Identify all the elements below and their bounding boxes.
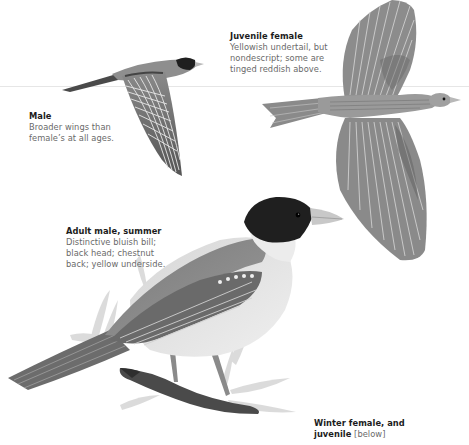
caption-text-line: female’s at all ages. bbox=[29, 133, 114, 144]
caption-note: [below] bbox=[354, 429, 385, 439]
caption-title-continued: juvenile bbox=[314, 429, 351, 439]
caption-text-line: black head; chestnut bbox=[66, 248, 165, 259]
caption-text-line: tinged reddish above. bbox=[230, 64, 328, 75]
caption-winter-female: Winter female, and juvenile [below] bbox=[314, 418, 405, 440]
caption-title: Winter female, and bbox=[314, 418, 405, 429]
caption-title: Adult male, summer bbox=[66, 226, 165, 237]
caption-text-line: Distinctive bluish bill; bbox=[66, 237, 165, 248]
caption-title: Male bbox=[29, 111, 114, 122]
caption-text-line: Yellowish undertail, but bbox=[230, 42, 328, 53]
caption-juvenile-female: Juvenile female Yellowish undertail, but… bbox=[230, 31, 328, 75]
caption-text-line: Broader wings than bbox=[29, 122, 114, 133]
caption-male-flight: Male Broader wings than female’s at all … bbox=[29, 111, 114, 144]
caption-adult-male-summer: Adult male, summer Distinctive bluish bi… bbox=[66, 226, 165, 270]
field-guide-page: Juvenile female Yellowish undertail, but… bbox=[0, 0, 469, 445]
adult-male-summer-illustration bbox=[8, 197, 344, 414]
caption-text-line: back; yellow underside. bbox=[66, 259, 165, 270]
caption-title: Juvenile female bbox=[230, 31, 328, 42]
caption-text-line: nondescript; some are bbox=[230, 53, 328, 64]
